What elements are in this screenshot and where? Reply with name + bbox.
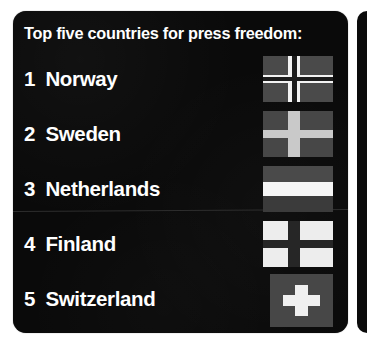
country-row-label: 1 Norway: [24, 52, 117, 106]
list-item[interactable]: 5 Switzerland: [13, 272, 348, 326]
list-item[interactable]: 3 Netherlands: [13, 162, 348, 216]
adjacent-panel-sliver: [357, 11, 367, 333]
rank-number: 5: [24, 287, 40, 310]
rank-number: 3: [24, 177, 40, 200]
netherlands-flag: [263, 166, 333, 212]
finland-flag: [263, 221, 333, 267]
country-row-label: 2 Sweden: [24, 107, 121, 161]
country-row-label: 5 Switzerland: [24, 272, 155, 326]
country-name: Switzerland: [45, 287, 155, 310]
page-title: Top five countries for press freedom:: [24, 22, 336, 44]
country-name: Netherlands: [45, 177, 160, 200]
country-row-label: 3 Netherlands: [24, 162, 160, 216]
press-freedom-card: Top five countries for press freedom: 1 …: [13, 11, 348, 333]
country-row-label: 4 Finland: [24, 217, 116, 271]
rank-number: 2: [24, 122, 40, 145]
country-name: Norway: [45, 67, 117, 90]
norway-flag: [263, 56, 333, 102]
country-name: Sweden: [45, 122, 120, 145]
rank-number: 4: [24, 232, 40, 255]
country-name: Finland: [45, 232, 115, 255]
list-item[interactable]: 1 Norway: [13, 52, 348, 106]
list-item[interactable]: 2 Sweden: [13, 107, 348, 161]
list-item[interactable]: 4 Finland: [13, 217, 348, 271]
rank-number: 1: [24, 67, 40, 90]
sweden-flag: [263, 111, 333, 157]
switzerland-flag: [263, 276, 333, 322]
